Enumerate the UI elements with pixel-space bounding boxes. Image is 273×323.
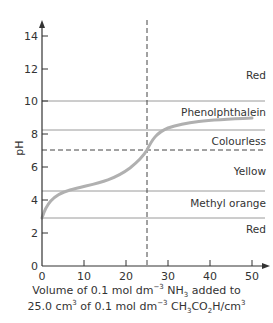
x-tick-40: 40 [203,270,217,283]
y-tick-14: 14 [24,30,38,43]
y-tick-10: 10 [24,95,38,108]
label-red-top: Red [246,69,266,81]
x-axis-label-line2: 25.0 cm3 of 0.1 mol dm−3 CH3CO2H/cm3 [0,299,273,314]
x-tick-20: 20 [119,270,133,283]
y-tick-4: 4 [31,194,38,207]
label-methyl-orange: Methyl orange [190,197,266,209]
x-axis-label-line1: Volume of 0.1 mol dm−3 NH3 added to [0,283,273,298]
titration-chart: 0 2 4 6 8 10 12 14 0 10 20 30 40 50 pH R… [0,0,273,323]
y-axis-arrow-icon [39,20,45,28]
label-phenolphthalein: Phenolphthalein [181,106,266,118]
y-tick-2: 2 [31,227,38,240]
y-tick-0: 0 [31,260,38,273]
y-axis-label: pH [13,140,26,155]
x-tick-30: 30 [161,270,175,283]
label-red-bottom: Red [246,223,266,235]
y-tick-12: 12 [24,63,38,76]
label-yellow: Yellow [233,165,267,177]
x-tick-10: 10 [77,270,91,283]
y-tick-6: 6 [31,161,38,174]
x-tick-50: 50 [245,270,259,283]
y-tick-8: 8 [31,128,38,141]
x-axis-arrow-icon [262,263,270,269]
x-tick-0: 0 [39,270,46,283]
label-colourless: Colourless [212,135,266,147]
